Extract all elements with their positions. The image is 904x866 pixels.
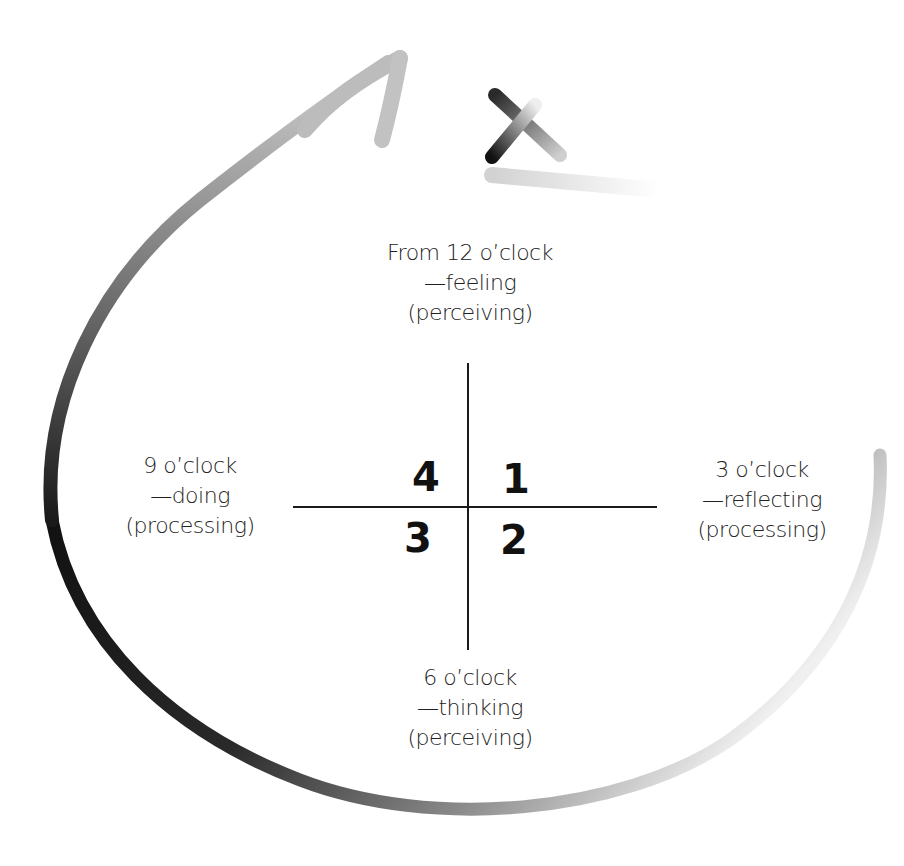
quadrant-number-3: 3 — [404, 518, 432, 558]
quadrant-number-4: 4 — [412, 457, 440, 497]
label-right-line1: 3 o’clock — [672, 455, 852, 485]
label-bottom-line2: —thinking — [370, 693, 570, 723]
label-top-line1: From 12 o’clock — [360, 238, 580, 268]
label-bottom-line3: (perceiving) — [370, 723, 570, 753]
quadrant-number-2: 2 — [500, 520, 528, 560]
label-right-3-oclock: 3 o’clock —reflecting (processing) — [672, 455, 852, 545]
label-top-12-oclock: From 12 o’clock —feeling (perceiving) — [360, 238, 580, 328]
label-top-line3: (perceiving) — [360, 298, 580, 328]
label-left-line3: (processing) — [100, 511, 280, 541]
label-right-line2: —reflecting — [672, 485, 852, 515]
label-left-line1: 9 o’clock — [100, 451, 280, 481]
label-top-line2: —feeling — [360, 268, 580, 298]
label-left-9-oclock: 9 o’clock —doing (processing) — [100, 451, 280, 541]
label-right-line3: (processing) — [672, 515, 852, 545]
cross-mark-icon — [492, 95, 660, 190]
label-bottom-6-oclock: 6 o’clock —thinking (perceiving) — [370, 663, 570, 753]
label-left-line2: —doing — [100, 481, 280, 511]
label-bottom-line1: 6 o’clock — [370, 663, 570, 693]
quadrant-number-1: 1 — [502, 459, 530, 499]
